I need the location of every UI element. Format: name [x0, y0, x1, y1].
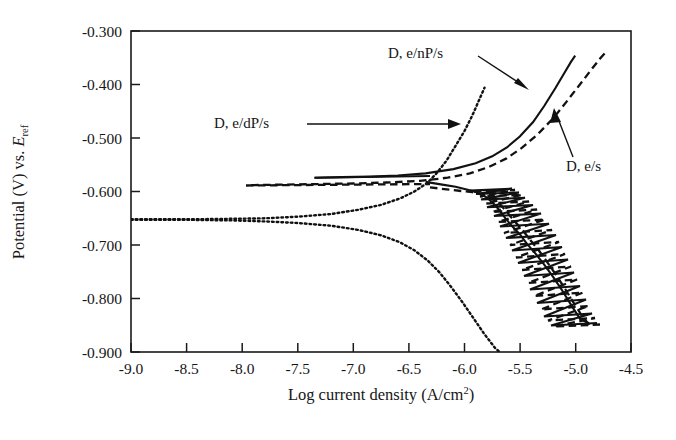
curve-plateau-solid — [315, 176, 431, 178]
x-tick-label: -7.0 — [341, 360, 366, 377]
x-axis-title-main: Log current density (A/cm — [288, 385, 464, 404]
y-tick-label: -0.300 — [82, 23, 122, 40]
x-tick-label: -8.0 — [230, 360, 255, 377]
x-tick-label: -5.0 — [563, 360, 588, 377]
label-e-s: D, e/s — [566, 158, 601, 174]
x-tick-label: -7.5 — [286, 360, 311, 377]
curve-e-dP-s-anodic — [131, 88, 485, 220]
polarization-curve-figure: -0.300 -0.400 -0.500 -0.600 -0.700 -0.80… — [0, 0, 676, 440]
x-axis-title-close: ) — [469, 385, 475, 404]
x-tick-label: -6.0 — [452, 360, 477, 377]
y-axis-title-main: Potential (V) vs. — [9, 147, 28, 260]
x-tick-label: -4.5 — [619, 360, 644, 377]
x-tick-label: -5.5 — [508, 360, 533, 377]
y-axis-ticks — [131, 31, 140, 352]
y-tick-labels: -0.300 -0.400 -0.500 -0.600 -0.700 -0.80… — [82, 23, 122, 361]
y-axis-title: Potential (V) vs. Eref — [9, 124, 30, 259]
label-e-nP-s: D, e/nP/s — [388, 45, 443, 61]
curve-e-nP-s-anodic — [315, 56, 576, 178]
y-tick-label: -0.600 — [82, 183, 122, 200]
arrowhead-e-nP-s — [514, 78, 529, 90]
x-tick-label: -6.5 — [397, 360, 422, 377]
y-tick-label: -0.400 — [82, 76, 122, 93]
y-axis-title-subscript: ref — [19, 124, 30, 136]
y-tick-label: -0.800 — [82, 290, 122, 307]
x-axis-title: Log current density (A/cm2) — [288, 385, 474, 404]
y-axis-title-symbol: E — [9, 136, 28, 147]
y-tick-label: -0.900 — [82, 344, 122, 361]
curve-e-s-cathodic-oscillation — [474, 190, 600, 327]
curve-e-dP-s-cathodic — [131, 220, 500, 352]
arrowhead-e-dP-s — [448, 119, 461, 129]
chart-canvas: -0.300 -0.400 -0.500 -0.600 -0.700 -0.80… — [0, 0, 676, 440]
x-tick-label: -9.0 — [119, 360, 144, 377]
x-tick-label: -8.5 — [174, 360, 199, 377]
y-tick-label: -0.700 — [82, 237, 122, 254]
x-tick-labels: -9.0 -8.5 -8.0 -7.5 -7.0 -6.5 -6.0 -5.5 … — [119, 360, 644, 377]
y-tick-label: -0.500 — [82, 130, 122, 147]
label-e-dP-s: D, e/dP/s — [214, 115, 269, 131]
x-axis-ticks — [131, 343, 631, 352]
leader-e-s — [557, 116, 573, 157]
